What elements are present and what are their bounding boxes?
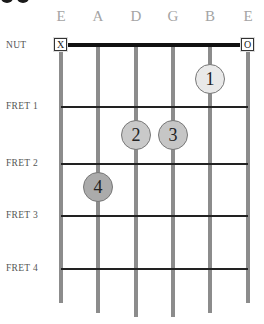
fret-line: [61, 106, 248, 108]
fret-line: [61, 163, 248, 165]
string-label-a: A: [88, 8, 108, 25]
string-label-d: D: [126, 8, 146, 25]
string-label-e-low: E: [51, 8, 71, 25]
fret-label: FRET 4: [6, 263, 52, 273]
string-line: [134, 45, 138, 317]
muted-string-marker: X: [54, 38, 67, 51]
fret-label: FRET 1: [6, 101, 52, 111]
finger-dot-1: 1: [195, 64, 225, 94]
fret-label: FRET 3: [6, 210, 52, 220]
finger-dot-2: 2: [121, 120, 151, 150]
nut-line: [56, 43, 252, 47]
nut-label: NUT: [6, 40, 52, 50]
finger-dot-4: 4: [83, 172, 113, 202]
cropped-glyph: [17, 0, 29, 3]
string-line: [171, 45, 175, 317]
fret-label: FRET 2: [6, 158, 52, 168]
fret-line: [61, 268, 248, 270]
finger-dot-3: 3: [158, 120, 188, 150]
fret-line: [61, 215, 248, 217]
open-string-marker: O: [241, 38, 254, 51]
cropped-glyph: [1, 0, 13, 3]
string-label-g: G: [163, 8, 183, 25]
string-label-e-high: E: [238, 8, 258, 25]
string-line: [59, 45, 63, 303]
string-line: [246, 45, 250, 303]
string-label-b: B: [200, 8, 220, 25]
